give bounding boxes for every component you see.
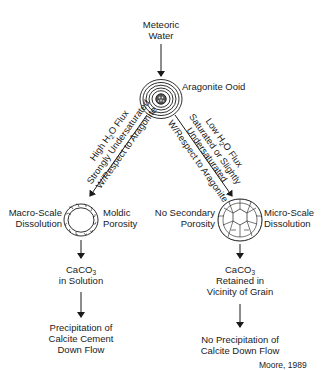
moldic-grain-icon [64,204,98,236]
precipitation-calcite-cement-label: Precipitation of Calcite Cement Down Flo… [36,322,126,355]
diagram-graphics [0,0,321,370]
center-node-label: Aragonite Ooid [182,81,245,92]
caco3-in-solution-label: CaCO3 in Solution [46,264,116,286]
micro-scale-dissolution-label: Micro-Scale Dissolution [264,207,314,229]
moldic-porosity-label: Moldic Porosity [103,207,137,229]
source-credit: Moore, 1989 [259,360,307,370]
caco3-retained-label: CaCO3 Retained in Vicinity of Grain [195,264,285,297]
no-precipitation-label: No Precipitation of Calcite Down Flow [190,334,290,356]
source-node-label: Meteoric Water [131,19,191,41]
no-secondary-porosity-label: No Secondary Porosity [150,207,215,229]
macro-scale-dissolution-label: Macro-Scale Dissolution [2,207,62,229]
